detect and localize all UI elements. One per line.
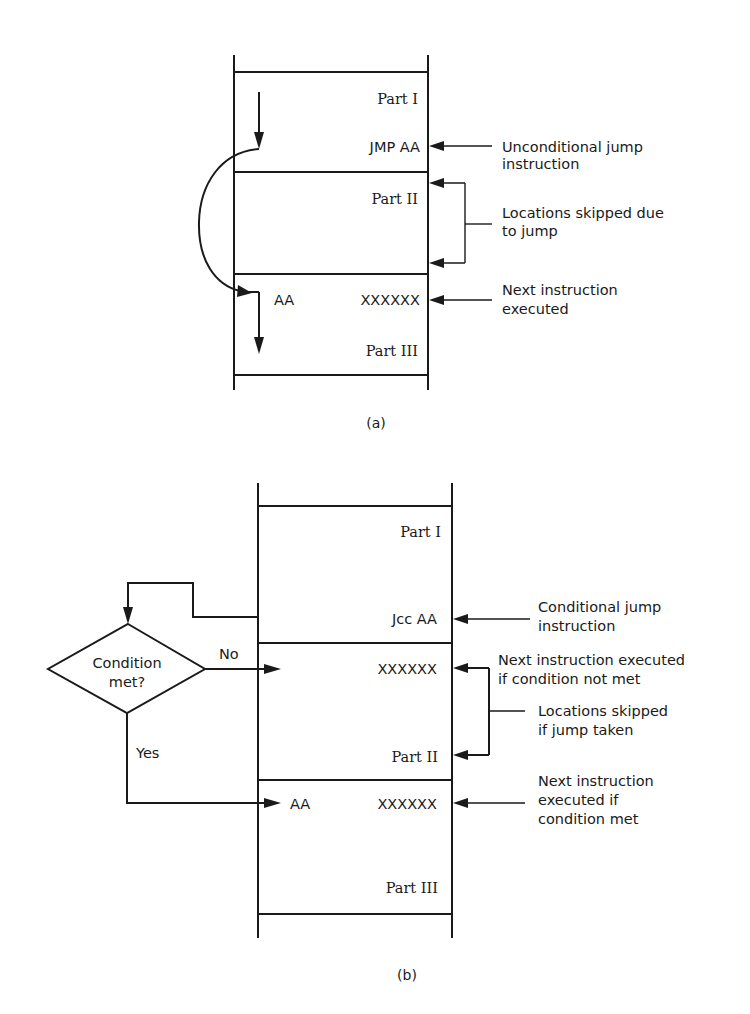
next-not-met-annotation-2: if condition not met [498, 671, 641, 687]
skipped-taken-annotation-2: if jump taken [538, 722, 633, 738]
jump-curve-arrow-icon [199, 149, 264, 354]
conditional-jump-annotation: Conditional jump [538, 599, 661, 615]
jmp-pointer-arrow-icon [429, 141, 492, 151]
next-met-arrow-icon [453, 798, 525, 808]
part-1-label-b: Part I [400, 524, 441, 540]
conditional-jump-annotation-2: instruction [538, 618, 615, 634]
next-met-annotation-3: condition met [538, 811, 639, 827]
next-instruction-annotation-2: executed [502, 301, 569, 317]
aa-label-b: AA [290, 796, 310, 812]
caption-a: (a) [366, 415, 386, 431]
jcc-pointer-arrow-icon [453, 614, 530, 624]
part-2-label-b: Part II [391, 749, 438, 765]
jump-instruction-figure: Part I JMP AA Part II AA XXXXXX Part III… [0, 0, 750, 1014]
target-instruction-label: XXXXXX [360, 292, 420, 308]
next-instruction-annotation: Next instruction [502, 282, 618, 298]
diagram-a-unconditional-jump: Part I JMP AA Part II AA XXXXXX Part III… [199, 55, 664, 431]
part-3-label-b: Part III [386, 880, 438, 896]
caption-b: (b) [397, 967, 417, 983]
part-2-label: Part II [371, 191, 418, 207]
next-met-annotation-2: executed if [538, 792, 619, 808]
condition-text-2: met? [109, 674, 145, 690]
skipped-locations-annotation-2: to jump [502, 223, 558, 239]
next-instruction-arrow-icon [429, 295, 492, 305]
skipped-bracket-icon [429, 178, 492, 268]
no-branch-arrow-icon [205, 664, 281, 674]
unconditional-jump-annotation: Unconditional jump [502, 139, 643, 155]
skipped-taken-annotation: Locations skipped [538, 703, 668, 719]
part-1-label: Part I [377, 91, 418, 107]
next-not-met-annotation: Next instruction executed [498, 652, 685, 668]
unconditional-jump-annotation-2: instruction [502, 156, 579, 172]
part-3-label: Part III [366, 343, 418, 359]
yes-label: Yes [135, 745, 159, 761]
flow-down-arrow-icon [254, 92, 264, 149]
diagram-b-conditional-jump: Part I Jcc AA XXXXXX Part II AA XXXXXX P… [48, 483, 685, 983]
aa-label: AA [274, 292, 294, 308]
next-met-annotation: Next instruction [538, 773, 654, 789]
jmp-instruction-label: JMP AA [369, 139, 420, 155]
jcc-instruction-label: Jcc AA [391, 611, 437, 627]
jcc-to-decision-arrow-icon [123, 583, 258, 624]
fallthrough-instruction-label: XXXXXX [377, 661, 437, 677]
no-label: No [219, 646, 239, 662]
condition-text: Condition [92, 655, 161, 671]
memory-column-b [258, 483, 452, 938]
target-instruction-label-b: XXXXXX [377, 796, 437, 812]
skipped-locations-annotation: Locations skipped due [502, 205, 664, 221]
